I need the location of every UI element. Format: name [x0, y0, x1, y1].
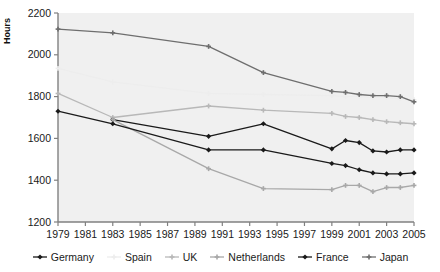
x-tick-label: 1993	[238, 228, 262, 240]
legend-plus-marker-icon	[164, 252, 180, 262]
legend-diamond-marker-icon	[32, 252, 48, 262]
y-tick-label: 1400	[28, 174, 52, 186]
x-tick-label: 1983	[101, 228, 125, 240]
x-tick-label: 1999	[320, 228, 344, 240]
x-tick-label: 2005	[402, 228, 426, 240]
y-tick-label: 1600	[28, 132, 52, 144]
x-tick-label: 1981	[74, 228, 98, 240]
x-tick-label: 1987	[156, 228, 180, 240]
y-tick-label: 1200	[28, 216, 52, 228]
legend-item-japan[interactable]: Japan	[361, 251, 409, 263]
chart-legend: GermanySpainUKNetherlandsFranceJapan	[0, 244, 440, 270]
x-tick-label: 1989	[183, 228, 207, 240]
x-tick-label: 1997	[293, 228, 317, 240]
legend-label: Germany	[51, 251, 94, 263]
legend-item-netherlands[interactable]: Netherlands	[209, 251, 285, 263]
legend-label: Netherlands	[228, 251, 285, 263]
x-tick-label: 2003	[375, 228, 399, 240]
legend-plus-marker-icon	[209, 252, 225, 262]
legend-plus-marker-icon	[106, 252, 122, 262]
legend-label: France	[316, 251, 349, 263]
y-tick-label: 1800	[28, 90, 52, 102]
legend-plus-marker-icon	[361, 252, 377, 262]
x-tick-label: 1995	[265, 228, 289, 240]
legend-label: UK	[183, 251, 198, 263]
y-tick-label: 2200	[28, 7, 52, 19]
legend-diamond-marker-icon	[297, 252, 313, 262]
chart-container: Hours 1200140016001800200022001979198119…	[0, 0, 440, 272]
legend-item-spain[interactable]: Spain	[106, 251, 152, 263]
legend-item-france[interactable]: France	[297, 251, 349, 263]
legend-item-uk[interactable]: UK	[164, 251, 198, 263]
x-tick-label: 1991	[211, 228, 235, 240]
legend-item-germany[interactable]: Germany	[32, 251, 94, 263]
line-chart-plot: 1200140016001800200022001979198119831985…	[0, 0, 440, 244]
y-tick-label: 2000	[28, 48, 52, 60]
legend-label: Spain	[125, 251, 152, 263]
x-tick-label: 1985	[128, 228, 152, 240]
x-tick-label: 1979	[46, 228, 70, 240]
x-tick-label: 2001	[348, 228, 372, 240]
legend-label: Japan	[380, 251, 409, 263]
